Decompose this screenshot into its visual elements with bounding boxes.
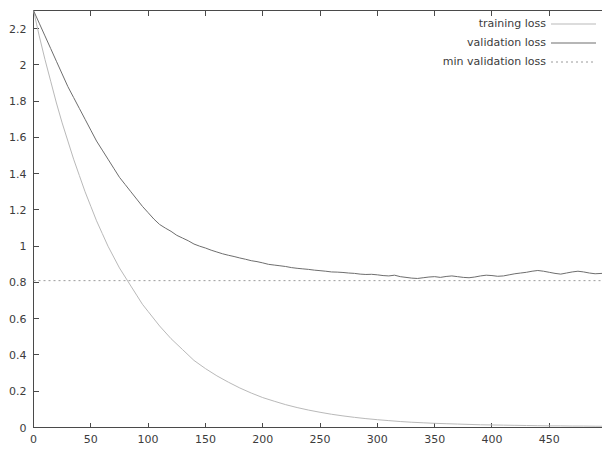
y-tick-label: 0 [20,422,27,435]
chart-legend: training lossvalidation lossmin validati… [443,17,596,68]
y-tick-label: 0.4 [9,349,27,362]
data-series [34,11,602,427]
validation-loss-line [34,11,602,279]
x-tick-label: 50 [84,433,98,446]
y-tick-label: 0.6 [9,313,27,326]
x-tick-label: 400 [481,433,502,446]
x-axis-tick-labels: 050100150200250300350400450 [30,433,560,446]
x-tick-label: 200 [252,433,273,446]
x-tick-label: 450 [539,433,560,446]
training-loss-line [34,11,602,427]
x-tick-label: 350 [424,433,445,446]
y-tick-label: 0.2 [9,385,27,398]
axis-left-bottom-border [34,11,602,428]
y-tick-label: 0.8 [9,276,27,289]
y-tick-label: 2.2 [9,23,27,36]
axes [34,11,602,428]
y-tick-label: 1 [20,240,27,253]
plot-area: 00.20.40.60.811.21.41.61.822.2 050100150… [0,0,602,453]
y-tick-label: 1.6 [9,131,27,144]
y-tick-label: 1.4 [9,168,27,181]
legend-item-training-loss-label: training loss [479,17,547,30]
x-tick-label: 150 [195,433,216,446]
axis-ticks [34,11,550,428]
x-tick-label: 250 [310,433,331,446]
y-tick-label: 1.2 [9,204,27,217]
y-tick-label: 1.8 [9,95,27,108]
legend-item-min-validation-loss-label: min validation loss [443,55,546,68]
legend-item-validation-loss-label: validation loss [467,36,546,49]
x-tick-label: 300 [367,433,388,446]
y-tick-label: 2 [20,59,27,72]
loss-curve-chart: 00.20.40.60.811.21.41.61.822.2 050100150… [0,0,602,453]
y-axis-tick-labels: 00.20.40.60.811.21.41.61.822.2 [9,23,27,435]
x-tick-label: 0 [30,433,37,446]
x-tick-label: 100 [138,433,159,446]
